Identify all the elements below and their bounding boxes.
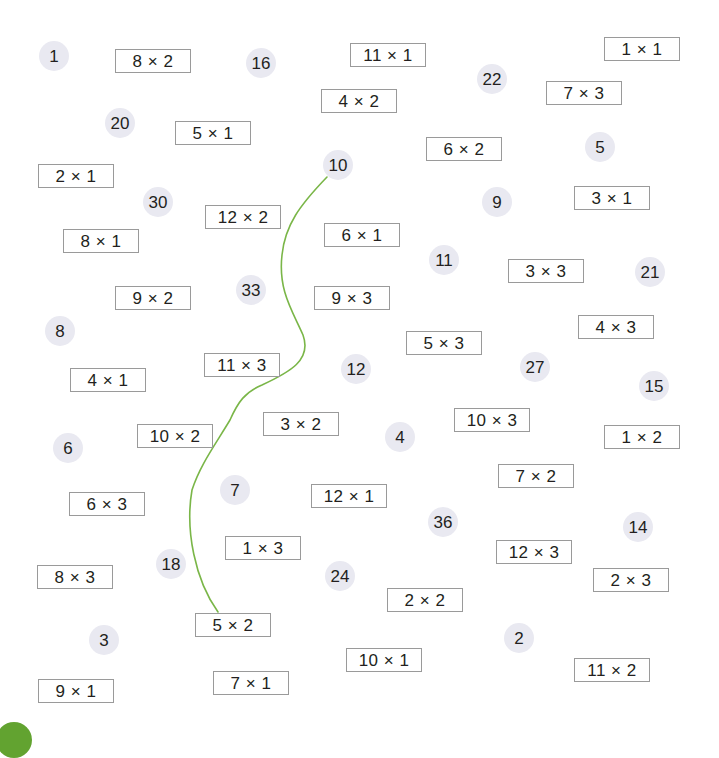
multiplication-box[interactable]: 1 × 1 [604,37,680,61]
number-circle[interactable]: 12 [341,354,371,384]
number-circle[interactable]: 30 [143,187,173,217]
number-circle[interactable]: 11 [429,245,459,275]
number-circle[interactable]: 36 [428,507,458,537]
number-circle[interactable]: 14 [623,512,653,542]
multiplication-box[interactable]: 9 × 3 [314,286,390,310]
multiplication-box[interactable]: 10 × 3 [454,408,530,432]
number-circle[interactable]: 4 [385,422,415,452]
multiplication-box[interactable]: 3 × 1 [574,186,650,210]
multiplication-box[interactable]: 3 × 2 [263,412,339,436]
multiplication-box[interactable]: 1 × 2 [604,425,680,449]
multiplication-box[interactable]: 2 × 3 [593,568,669,592]
multiplication-box[interactable]: 11 × 3 [204,353,280,377]
multiplication-box[interactable]: 10 × 1 [346,648,422,672]
number-circle[interactable]: 27 [520,352,550,382]
multiplication-box[interactable]: 12 × 2 [205,205,281,229]
number-circle[interactable]: 6 [53,433,83,463]
multiplication-box[interactable]: 6 × 1 [324,223,400,247]
multiplication-box[interactable]: 2 × 2 [387,588,463,612]
number-circle[interactable]: 5 [585,132,615,162]
multiplication-box[interactable]: 8 × 1 [63,229,139,253]
number-circle[interactable]: 24 [325,561,355,591]
number-circle[interactable]: 15 [639,371,669,401]
number-circle[interactable]: 8 [45,316,75,346]
multiplication-box[interactable]: 4 × 3 [578,315,654,339]
number-circle[interactable]: 10 [323,150,353,180]
multiplication-box[interactable]: 8 × 2 [115,49,191,73]
number-circle[interactable]: 22 [477,64,507,94]
multiplication-box[interactable]: 5 × 2 [195,613,271,637]
number-circle[interactable]: 16 [246,48,276,78]
corner-tab-icon [0,722,32,758]
multiplication-box[interactable]: 4 × 2 [321,89,397,113]
multiplication-box[interactable]: 7 × 1 [213,671,289,695]
number-circle[interactable]: 21 [635,257,665,287]
multiplication-box[interactable]: 3 × 3 [508,259,584,283]
number-circle[interactable]: 18 [156,549,186,579]
multiplication-box[interactable]: 12 × 3 [496,540,572,564]
multiplication-box[interactable]: 5 × 3 [406,331,482,355]
number-circle[interactable]: 20 [105,108,135,138]
multiplication-box[interactable]: 1 × 3 [225,536,301,560]
number-circle[interactable]: 2 [504,623,534,653]
multiplication-box[interactable]: 7 × 2 [498,464,574,488]
multiplication-box[interactable]: 6 × 3 [69,492,145,516]
multiplication-box[interactable]: 9 × 2 [115,286,191,310]
multiplication-box[interactable]: 6 × 2 [426,137,502,161]
multiplication-box[interactable]: 9 × 1 [38,679,114,703]
number-circle[interactable]: 33 [236,275,266,305]
number-circle[interactable]: 1 [39,41,69,71]
multiplication-box[interactable]: 5 × 1 [175,121,251,145]
number-circle[interactable]: 9 [482,187,512,217]
number-circle[interactable]: 3 [89,625,119,655]
number-circle[interactable]: 7 [220,475,250,505]
multiplication-box[interactable]: 11 × 2 [574,658,650,682]
multiplication-box[interactable]: 2 × 1 [38,164,114,188]
multiplication-box[interactable]: 8 × 3 [37,565,113,589]
multiplication-box[interactable]: 7 × 3 [546,81,622,105]
multiplication-box[interactable]: 11 × 1 [350,43,426,67]
multiplication-box[interactable]: 12 × 1 [311,484,387,508]
multiplication-box[interactable]: 10 × 2 [137,424,213,448]
multiplication-box[interactable]: 4 × 1 [70,368,146,392]
